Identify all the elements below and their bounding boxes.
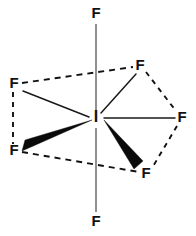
dashed-upper-right-to-right [146, 72, 176, 111]
fluorine-axial-bottom: F [91, 212, 100, 229]
dashed-lower-left-to-lower-right [22, 152, 139, 172]
fluorine-axial-top: F [91, 4, 100, 21]
fluorine-equatorial-upper-left: F [9, 74, 18, 91]
fluorine-equatorial-lower-right: F [141, 164, 150, 181]
fluorine-equatorial-right: F [177, 108, 186, 125]
dashed-right-to-lower-right [152, 126, 177, 168]
iodine-center: I [94, 108, 98, 125]
molecule-canvas: F F F F F F F I [0, 0, 196, 236]
wedge-to-lower-right-fluorine [104, 120, 143, 169]
fluorine-equatorial-upper-right: F [135, 56, 144, 73]
dashed-upper-left-to-upper-right [22, 67, 133, 83]
wedge-to-lower-left-fluorine [22, 120, 92, 151]
bond-to-upper-right-fluorine [101, 74, 136, 113]
fluorine-equatorial-lower-left: F [9, 141, 18, 158]
bond-to-upper-left-fluorine [23, 91, 89, 117]
molecule-diagram: F F F F F F F I [0, 0, 196, 236]
